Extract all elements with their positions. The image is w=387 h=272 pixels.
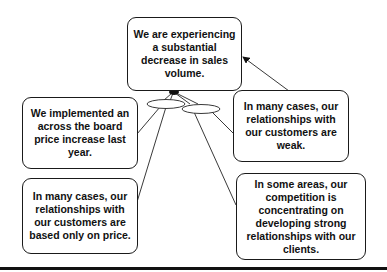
node-cause-price-increase-text: We implemented an across the board price… xyxy=(28,107,132,159)
bottom-divider xyxy=(0,267,387,270)
link-competition xyxy=(194,112,236,205)
node-cause-competition-text: In some areas, our competition is concen… xyxy=(242,178,360,256)
node-cause-weak-relationships: In many cases, our relationships with ou… xyxy=(233,90,349,162)
node-cause-competition: In some areas, our competition is concen… xyxy=(236,173,366,260)
node-effect: We are experiencing a substantial decrea… xyxy=(127,17,242,91)
and-ellipse-right xyxy=(182,105,220,114)
node-cause-price-increase: We implemented an across the board price… xyxy=(22,97,138,169)
and-ellipse-left xyxy=(147,100,185,109)
node-cause-weak-relationships-text: In many cases, our relationships with ou… xyxy=(239,100,343,152)
arrow-weak-to-effect xyxy=(243,57,289,91)
node-cause-price-based-text: In many cases, our relationships with ou… xyxy=(28,190,132,242)
link-price-increase xyxy=(137,107,160,134)
link-weak-relationships xyxy=(212,112,233,133)
link-price-based xyxy=(137,107,166,202)
node-cause-price-based: In many cases, our relationships with ou… xyxy=(22,178,138,254)
node-effect-text: We are experiencing a substantial decrea… xyxy=(133,28,236,80)
